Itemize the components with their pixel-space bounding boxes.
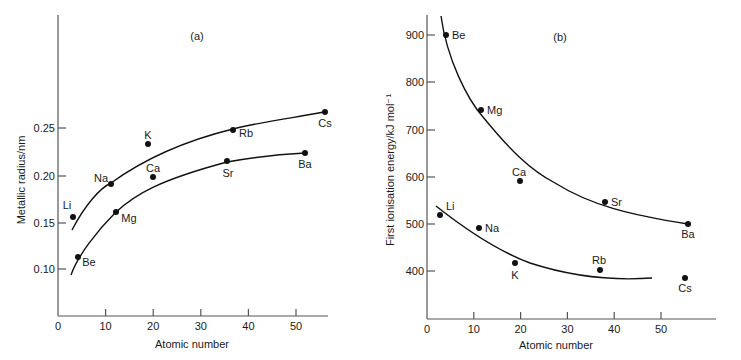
y-axis-title-b: First ionisation energy/kJ mol⁻¹ [384, 94, 396, 246]
data-point-rb [597, 267, 603, 273]
point-label: Cs [678, 282, 692, 294]
data-point-ca [517, 178, 523, 184]
point-label: Ba [298, 158, 312, 170]
point-label: Rb [239, 127, 253, 139]
x-ticks-a: 0 10 20 30 40 50 [55, 309, 302, 332]
point-label: Ba [681, 228, 695, 240]
point-label: K [144, 129, 152, 141]
x-tick-label: 40 [608, 323, 620, 335]
y-tick-label: 0.25 [34, 122, 55, 134]
point-label: Na [485, 222, 500, 234]
x-tick-label: 0 [55, 320, 61, 332]
x-tick-label: 10 [99, 320, 111, 332]
y-tick-label: 0.10 [34, 263, 55, 275]
point-label: Cs [318, 117, 332, 129]
point-label: Sr [223, 167, 234, 179]
y-axis-title-a: Metallic radius/nm [15, 136, 27, 225]
point-label: Li [446, 200, 455, 212]
data-point-na [476, 225, 482, 231]
y-tick-label: 0.20 [34, 170, 55, 182]
y-tick-label: 900 [406, 29, 424, 41]
x-ticks-b: 0 10 20 30 40 50 [424, 312, 667, 335]
x-tick-label: 30 [561, 323, 573, 335]
data-point-ca [150, 174, 156, 180]
points-group1-b: Li Na K Rb Cs [437, 200, 692, 294]
data-point-k [145, 141, 151, 147]
y-ticks-a: 0.25 0.20 0.15 0.10 [34, 122, 66, 275]
point-label: Sr [611, 196, 622, 208]
points-group1-a: Li Na K Rb Cs [63, 109, 332, 220]
x-axis-title-a: Atomic number [155, 338, 229, 350]
point-label: Be [452, 29, 465, 41]
x-tick-label: 0 [424, 323, 430, 335]
curve-group1-b [436, 206, 652, 279]
panel-label-b: (b) [553, 31, 566, 43]
panel-label-a: (a) [190, 30, 203, 42]
point-label: Be [82, 256, 95, 268]
point-label: Li [63, 199, 72, 211]
y-tick-label: 500 [406, 218, 424, 230]
x-tick-label: 50 [290, 320, 302, 332]
data-point-mg [478, 107, 484, 113]
data-point-sr [602, 199, 608, 205]
data-point-cs [322, 109, 328, 115]
x-tick-label: 30 [195, 320, 207, 332]
data-point-li [70, 214, 76, 220]
data-point-ba [685, 221, 691, 227]
data-point-cs [682, 275, 688, 281]
y-ticks-b: 900 800 700 600 500 400 [406, 29, 435, 277]
y-tick-label: 700 [406, 124, 424, 136]
data-point-ba [302, 150, 308, 156]
figure: 0.25 0.20 0.15 0.10 0 10 20 30 40 50 Ato… [0, 0, 741, 360]
points-group2-a: Be Mg Ca Sr Ba [75, 150, 313, 268]
y-tick-label: 800 [406, 76, 424, 88]
data-point-k [512, 260, 518, 266]
data-point-rb [230, 127, 236, 133]
point-label: Mg [121, 212, 136, 224]
y-tick-label: 400 [406, 265, 424, 277]
y-tick-label: 0.15 [34, 217, 55, 229]
point-label: K [511, 269, 519, 281]
data-point-be [443, 32, 449, 38]
data-point-li [437, 212, 443, 218]
x-axis-title-b: Atomic number [519, 339, 593, 351]
point-label: Rb [592, 254, 606, 266]
points-group2-b: Be Mg Ca Sr Ba [443, 29, 696, 240]
data-point-be [75, 254, 81, 260]
x-tick-label: 10 [468, 323, 480, 335]
point-label: Na [94, 172, 109, 184]
x-tick-label: 40 [242, 320, 254, 332]
point-label: Mg [487, 104, 502, 116]
curve-group2-b [441, 16, 688, 224]
data-point-sr [224, 158, 230, 164]
x-tick-label: 20 [147, 320, 159, 332]
point-label: Ca [512, 166, 527, 178]
x-tick-label: 20 [514, 323, 526, 335]
data-point-na [108, 181, 114, 187]
chart-a: 0.25 0.20 0.15 0.10 0 10 20 30 40 50 Ato… [15, 15, 332, 350]
chart-b: 900 800 700 600 500 400 0 10 20 30 40 50… [384, 15, 716, 351]
point-label: Ca [146, 162, 161, 174]
y-tick-label: 600 [406, 171, 424, 183]
x-tick-label: 50 [655, 323, 667, 335]
data-point-mg [113, 209, 119, 215]
